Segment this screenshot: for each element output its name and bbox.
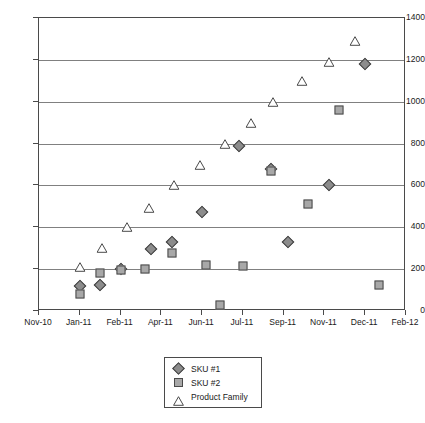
data-point	[168, 180, 179, 190]
diamond-marker-icon	[172, 363, 186, 375]
x-tick-label: Feb-12	[392, 318, 419, 327]
data-point	[334, 106, 343, 115]
x-tick-label: Nov-10	[24, 318, 51, 327]
scatter-chart: 0200400600800100012001400 Nov-10Jan-11Fe…	[0, 0, 425, 423]
legend-item[interactable]: Product Family	[172, 390, 261, 404]
data-point	[304, 200, 313, 209]
data-point	[196, 205, 209, 218]
data-point	[202, 260, 211, 269]
data-point	[350, 36, 361, 46]
data-point	[144, 203, 155, 213]
data-point	[97, 243, 108, 253]
data-point	[94, 278, 107, 291]
x-tick-mark	[364, 310, 365, 315]
x-tick-label: Apr-11	[148, 318, 173, 327]
data-point	[268, 97, 279, 107]
x-tick-label: Feb-11	[106, 318, 132, 327]
legend-label: Product Family	[191, 392, 248, 402]
x-tick-label: Jun-11	[188, 318, 213, 327]
data-point	[116, 266, 125, 275]
square-marker-icon	[172, 377, 186, 389]
legend-label: SKU #1	[191, 364, 220, 374]
triangle-marker-icon	[172, 391, 186, 403]
x-tick-label: Jul-11	[231, 318, 254, 327]
data-point	[219, 139, 230, 149]
data-point	[267, 166, 276, 175]
x-tick-mark	[283, 310, 284, 315]
data-point	[195, 160, 206, 170]
x-tick-mark	[79, 310, 80, 315]
data-point	[238, 262, 247, 271]
x-tick-mark	[160, 310, 161, 315]
x-tick-label: Sep-11	[269, 318, 296, 327]
x-tick-label: Jan-11	[66, 318, 91, 327]
data-point	[216, 300, 225, 309]
data-point	[96, 269, 105, 278]
x-tick-label: Nov-11	[310, 318, 337, 327]
data-point	[145, 243, 158, 256]
gridline	[39, 60, 404, 61]
data-point	[121, 222, 132, 232]
gridline	[39, 269, 404, 270]
x-tick-mark	[242, 310, 243, 315]
gridline	[39, 227, 404, 228]
data-point	[297, 76, 308, 86]
data-point	[232, 139, 245, 152]
gridline	[39, 102, 404, 103]
data-point	[141, 265, 150, 274]
legend-item[interactable]: SKU #1	[172, 362, 261, 376]
x-tick-mark	[323, 310, 324, 315]
data-point	[281, 236, 294, 249]
x-tick-mark	[201, 310, 202, 315]
x-tick-mark	[405, 310, 406, 315]
legend-label: SKU #2	[191, 378, 220, 388]
x-tick-mark	[120, 310, 121, 315]
legend-item[interactable]: SKU #2	[172, 376, 261, 390]
data-point	[322, 179, 335, 192]
x-tick-label: Dec-11	[351, 318, 378, 327]
x-tick-mark	[38, 310, 39, 315]
plot-area	[38, 17, 405, 310]
data-point	[323, 57, 334, 67]
data-point	[375, 280, 384, 289]
gridline	[39, 185, 404, 186]
data-point	[246, 118, 257, 128]
chart-legend: SKU #1SKU #2Product Family	[164, 357, 262, 408]
data-point	[167, 249, 176, 258]
data-point	[165, 236, 178, 249]
data-point	[75, 290, 84, 299]
data-point	[74, 262, 85, 272]
